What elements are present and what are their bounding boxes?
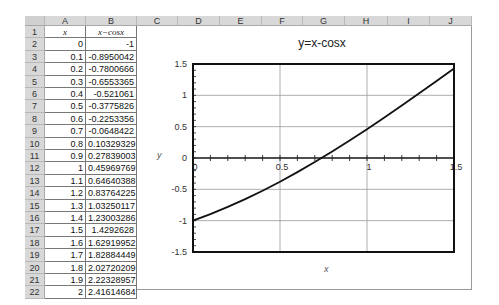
cell-b5[interactable]: -0.6553365 — [86, 76, 137, 88]
cell-a17[interactable]: 1.5 — [45, 224, 86, 236]
row-header-10[interactable]: 10 — [25, 138, 45, 150]
cell-a14[interactable]: 1.2 — [45, 187, 86, 199]
row-header-20[interactable]: 20 — [25, 262, 45, 274]
cell-b1[interactable]: x−cosx — [86, 26, 137, 38]
column-header-b[interactable]: B — [86, 16, 137, 26]
cell-a6[interactable]: 0.4 — [45, 88, 86, 100]
column-header-d[interactable]: D — [178, 16, 220, 26]
cell-a3[interactable]: 0.1 — [45, 51, 86, 63]
row-header-21[interactable]: 21 — [25, 274, 45, 286]
y-tick-label: -1 — [179, 216, 187, 226]
y-tick-label: -1.5 — [171, 247, 187, 257]
row-header-22[interactable]: 22 — [25, 286, 45, 298]
column-header-c[interactable]: C — [137, 16, 178, 26]
row-header-15[interactable]: 15 — [25, 200, 45, 212]
spreadsheet: ABCDEFGHIJ 1xx−cosx20-130.1-0.895004240.… — [0, 0, 499, 305]
cell-b22[interactable]: 2.41614684 — [86, 286, 137, 298]
chart-title: y=x-cosx — [298, 36, 346, 50]
cell-b8[interactable]: -0.2253356 — [86, 113, 137, 125]
chart-canvas: y=x-cosx 1.510.50-0.5-1-1.500.511.5 y x — [137, 26, 472, 290]
cell-a21[interactable]: 1.9 — [45, 274, 86, 286]
cell-b13[interactable]: 0.64640388 — [86, 175, 137, 187]
row-header-2[interactable]: 2 — [25, 38, 45, 50]
row-header-11[interactable]: 11 — [25, 150, 45, 162]
cell-b9[interactable]: -0.0648422 — [86, 125, 137, 137]
row-header-6[interactable]: 6 — [25, 88, 45, 100]
cell-a15[interactable]: 1.3 — [45, 200, 86, 212]
y-tick-label: 1 — [182, 90, 187, 100]
cell-a16[interactable]: 1.4 — [45, 212, 86, 224]
row-header-18[interactable]: 18 — [25, 237, 45, 249]
cell-a20[interactable]: 1.8 — [45, 262, 86, 274]
x-tick-label: 0.5 — [276, 162, 289, 172]
row-header-16[interactable]: 16 — [25, 212, 45, 224]
row-header-3[interactable]: 3 — [25, 51, 45, 63]
y-tick-label: -0.5 — [171, 184, 187, 194]
cell-b4[interactable]: -0.7800666 — [86, 63, 137, 75]
plot-area: 1.510.50-0.5-1-1.500.511.5 — [171, 59, 462, 257]
row-header-9[interactable]: 9 — [25, 125, 45, 137]
column-header-a[interactable]: A — [45, 16, 86, 26]
x-tick-label: 1 — [366, 162, 371, 172]
cell-b14[interactable]: 0.83764225 — [86, 187, 137, 199]
row-header-12[interactable]: 12 — [25, 162, 45, 174]
column-header-g[interactable]: G — [303, 16, 345, 26]
y-tick-label: 0 — [182, 153, 187, 163]
cell-b10[interactable]: 0.10329329 — [86, 138, 137, 150]
cell-a7[interactable]: 0.5 — [45, 100, 86, 112]
cell-b11[interactable]: 0.27839003 — [86, 150, 137, 162]
column-header-f[interactable]: F — [262, 16, 303, 26]
row-header-17[interactable]: 17 — [25, 224, 45, 236]
cell-b17[interactable]: 1.4292628 — [86, 224, 137, 236]
chart[interactable]: y=x-cosx 1.510.50-0.5-1-1.500.511.5 y x — [137, 26, 472, 290]
x-axis-label: x — [323, 264, 329, 274]
cell-a1[interactable]: x — [45, 26, 86, 38]
cell-b18[interactable]: 1.62919952 — [86, 237, 137, 249]
row-header-5[interactable]: 5 — [25, 76, 45, 88]
cell-a2[interactable]: 0 — [45, 38, 86, 50]
cell-b3[interactable]: -0.8950042 — [86, 51, 137, 63]
cell-b12[interactable]: 0.45969769 — [86, 162, 137, 174]
column-header-e[interactable]: E — [220, 16, 262, 26]
cell-a11[interactable]: 0.9 — [45, 150, 86, 162]
cell-a19[interactable]: 1.7 — [45, 249, 86, 261]
row-header-7[interactable]: 7 — [25, 100, 45, 112]
select-all-corner[interactable] — [25, 16, 45, 26]
x-tick-label: 1.5 — [450, 162, 463, 172]
cell-b6[interactable]: -0.521061 — [86, 88, 137, 100]
row-header-19[interactable]: 19 — [25, 249, 45, 261]
column-header-j[interactable]: J — [430, 16, 472, 26]
row-header-13[interactable]: 13 — [25, 175, 45, 187]
y-tick-label: 0.5 — [174, 122, 187, 132]
y-tick-label: 1.5 — [174, 59, 187, 69]
row-header-14[interactable]: 14 — [25, 187, 45, 199]
row-header-4[interactable]: 4 — [25, 63, 45, 75]
cell-b21[interactable]: 2.22328957 — [86, 274, 137, 286]
cell-a9[interactable]: 0.7 — [45, 125, 86, 137]
y-axis-label: y — [156, 150, 162, 160]
cell-a10[interactable]: 0.8 — [45, 138, 86, 150]
column-header-h[interactable]: H — [345, 16, 388, 26]
cell-b16[interactable]: 1.23003286 — [86, 212, 137, 224]
cell-b15[interactable]: 1.03250117 — [86, 200, 137, 212]
cell-b2[interactable]: -1 — [86, 38, 137, 50]
cell-b20[interactable]: 2.02720209 — [86, 262, 137, 274]
row-header-1[interactable]: 1 — [25, 26, 45, 38]
row-header-8[interactable]: 8 — [25, 113, 45, 125]
cell-a5[interactable]: 0.3 — [45, 76, 86, 88]
cell-a12[interactable]: 1 — [45, 162, 86, 174]
column-header-i[interactable]: I — [388, 16, 430, 26]
cell-b7[interactable]: -0.3775826 — [86, 100, 137, 112]
cell-a8[interactable]: 0.6 — [45, 113, 86, 125]
cell-b19[interactable]: 1.82884449 — [86, 249, 137, 261]
cell-a22[interactable]: 2 — [45, 286, 86, 298]
cell-a4[interactable]: 0.2 — [45, 63, 86, 75]
cell-a18[interactable]: 1.6 — [45, 237, 86, 249]
series-line — [193, 68, 454, 220]
cell-a13[interactable]: 1.1 — [45, 175, 86, 187]
